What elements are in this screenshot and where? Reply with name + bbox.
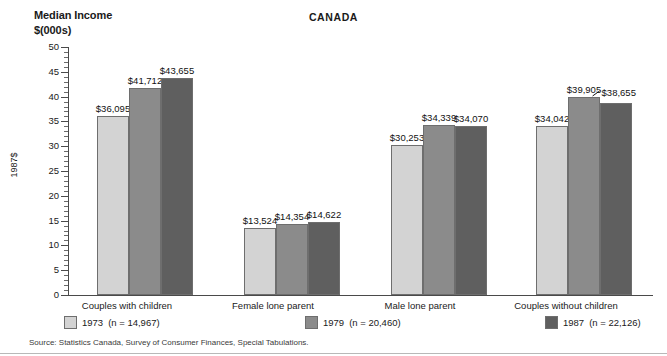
bar-group: $34,042$39,905$38,655: [536, 47, 632, 295]
y-axis-major-tick: [61, 72, 68, 73]
bar-1979-male-lone-parent[interactable]: $34,339: [423, 125, 455, 295]
y-axis-major-tick: [61, 245, 68, 246]
legend-sample-size: (n = 22,126): [589, 317, 641, 328]
bar-value-label: $13,524: [243, 216, 277, 226]
y-axis-major-tick: [61, 221, 68, 222]
bottom-divider: [0, 353, 667, 354]
bar-1979-couples-with-children[interactable]: $41,712: [129, 88, 161, 295]
y-axis-major-tick: [61, 171, 68, 172]
legend-item-1973[interactable]: 1973(n = 14,967): [64, 316, 160, 329]
y-axis-tick-label: 10: [11, 240, 59, 250]
legend-swatch-icon: [545, 316, 558, 329]
y-axis-tick-label: 0: [11, 290, 59, 300]
bar-value-label: $14,354: [275, 212, 309, 222]
y-axis-tick-label: 15: [11, 216, 59, 226]
legend-item-1979[interactable]: 1979(n = 20,460): [305, 316, 401, 329]
y-axis-major-tick: [61, 146, 68, 147]
bar-value-label: $34,070: [454, 114, 488, 124]
y-axis-major-tick: [61, 121, 68, 122]
bar-1973-male-lone-parent[interactable]: $30,253: [391, 145, 423, 295]
bar-value-label: $34,042: [535, 114, 569, 124]
y-axis-major-tick: [61, 295, 68, 296]
y-axis-tick-label: 50: [11, 42, 59, 52]
bar-1987-couples-with-children[interactable]: $43,655: [161, 78, 193, 295]
bar-1987-male-lone-parent[interactable]: $34,070: [455, 126, 487, 295]
y-axis-major-tick: [61, 97, 68, 98]
y-axis-major-tick: [61, 47, 68, 48]
y-axis-tick-label: 20: [11, 191, 59, 201]
bar-group: $36,095$41,712$43,655: [97, 47, 193, 295]
legend-item-1987[interactable]: 1987(n = 22,126): [545, 316, 641, 329]
y-axis-major-tick: [61, 270, 68, 271]
y-axis-major-tick: [61, 196, 68, 197]
bar-1973-female-lone-parent[interactable]: $13,524: [244, 228, 276, 295]
legend-year-label: 1987: [563, 317, 584, 328]
legend-sample-size: (n = 14,967): [108, 317, 160, 328]
legend-year-label: 1979: [323, 317, 344, 328]
legend-year-label: 1973: [82, 317, 103, 328]
source-note: Source: Statistics Canada, Survey of Con…: [29, 338, 309, 347]
bar-1973-couples-without-children[interactable]: $34,042: [536, 126, 568, 295]
y-axis-tick-label: 35: [11, 116, 59, 126]
bar-1987-couples-without-children[interactable]: $38,655: [600, 103, 632, 295]
legend: 1973(n = 14,967)1979(n = 20,460)1987(n =…: [0, 316, 667, 336]
legend-swatch-icon: [305, 316, 318, 329]
legend-sample-size: (n = 20,460): [349, 317, 401, 328]
x-axis-line: [68, 295, 653, 296]
bar-value-label: $43,655: [160, 66, 194, 76]
x-axis-category-label: Couples without children: [476, 300, 656, 311]
chart-title: CANADA: [0, 11, 667, 23]
plot-area: $36,095$41,712$43,655$13,524$14,354$14,6…: [68, 47, 653, 295]
bar-value-label: $34,339: [422, 113, 456, 123]
y-axis-tick-label: 40: [11, 92, 59, 102]
bar-value-label: $36,095: [96, 104, 130, 114]
bar-1979-female-lone-parent[interactable]: $14,354: [276, 224, 308, 295]
bar-1979-couples-without-children[interactable]: $39,905: [568, 97, 600, 295]
label-leader-line-icon: [593, 91, 600, 97]
bar-value-label: $41,712: [128, 76, 162, 86]
bar-value-label: $38,655: [602, 88, 636, 98]
bar-1973-couples-with-children[interactable]: $36,095: [97, 116, 129, 295]
bar-value-label: $30,253: [390, 133, 424, 143]
bar-group: $13,524$14,354$14,622: [244, 47, 340, 295]
bar-1987-female-lone-parent[interactable]: $14,622: [308, 222, 340, 295]
bar-group: $30,253$34,339$34,070: [391, 47, 487, 295]
y-axis-tick-label: 5: [11, 265, 59, 275]
y-axis-tick-label: 45: [11, 67, 59, 77]
legend-swatch-icon: [64, 316, 77, 329]
bar-value-label: $14,622: [307, 210, 341, 220]
y-axis-title: 1987$: [9, 140, 19, 190]
